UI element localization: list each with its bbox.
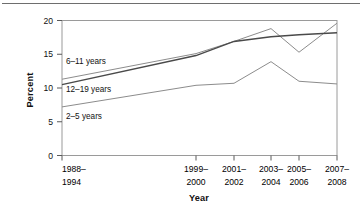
x-tick-label-1-line1: 1988– bbox=[62, 164, 86, 174]
x-tick-label-1-line2: 1994 bbox=[62, 177, 81, 187]
x-tick-label-5-line2: 2006 bbox=[289, 177, 308, 187]
series-label-12-19-years: 12–19 years bbox=[66, 85, 111, 94]
x-tick-label-2-line2: 2000 bbox=[186, 177, 205, 187]
y-tick-label-10: 10 bbox=[43, 83, 53, 93]
x-tick-label-4-line1: 2003– bbox=[259, 164, 283, 174]
y-tick-label-0: 0 bbox=[48, 151, 53, 161]
x-tick-label-6-line1: 2007– bbox=[325, 164, 349, 174]
x-tick-label-4-line2: 2004 bbox=[261, 177, 280, 187]
line-chart: 0 5 10 15 20 Percent 1988– 1994 1999– 20… bbox=[0, 0, 362, 211]
y-axis-ticks bbox=[57, 21, 62, 156]
figure-container: 0 5 10 15 20 Percent 1988– 1994 1999– 20… bbox=[0, 0, 362, 211]
y-tick-labels: 0 5 10 15 20 bbox=[43, 16, 53, 161]
x-tick-label-6-line2: 2008 bbox=[327, 177, 346, 187]
y-tick-label-20: 20 bbox=[43, 16, 53, 26]
x-tick-label-2-line1: 1999– bbox=[184, 164, 208, 174]
x-tick-label-3-line2: 2002 bbox=[224, 177, 243, 187]
series-label-2-5-years: 2–5 years bbox=[66, 112, 102, 121]
x-axis-ticks bbox=[62, 156, 337, 161]
x-tick-label-3-line1: 2001– bbox=[222, 164, 246, 174]
y-tick-label-5: 5 bbox=[48, 117, 53, 127]
x-tick-labels: 1988– 1994 1999– 2000 2001– 2002 2003– 2… bbox=[62, 164, 349, 187]
series-label-6-11-years: 6–11 years bbox=[66, 57, 106, 66]
x-axis-title: Year bbox=[189, 193, 209, 203]
y-axis-title: Percent bbox=[25, 72, 35, 107]
y-tick-label-15: 15 bbox=[43, 49, 53, 59]
x-tick-label-5-line1: 2005– bbox=[287, 164, 311, 174]
